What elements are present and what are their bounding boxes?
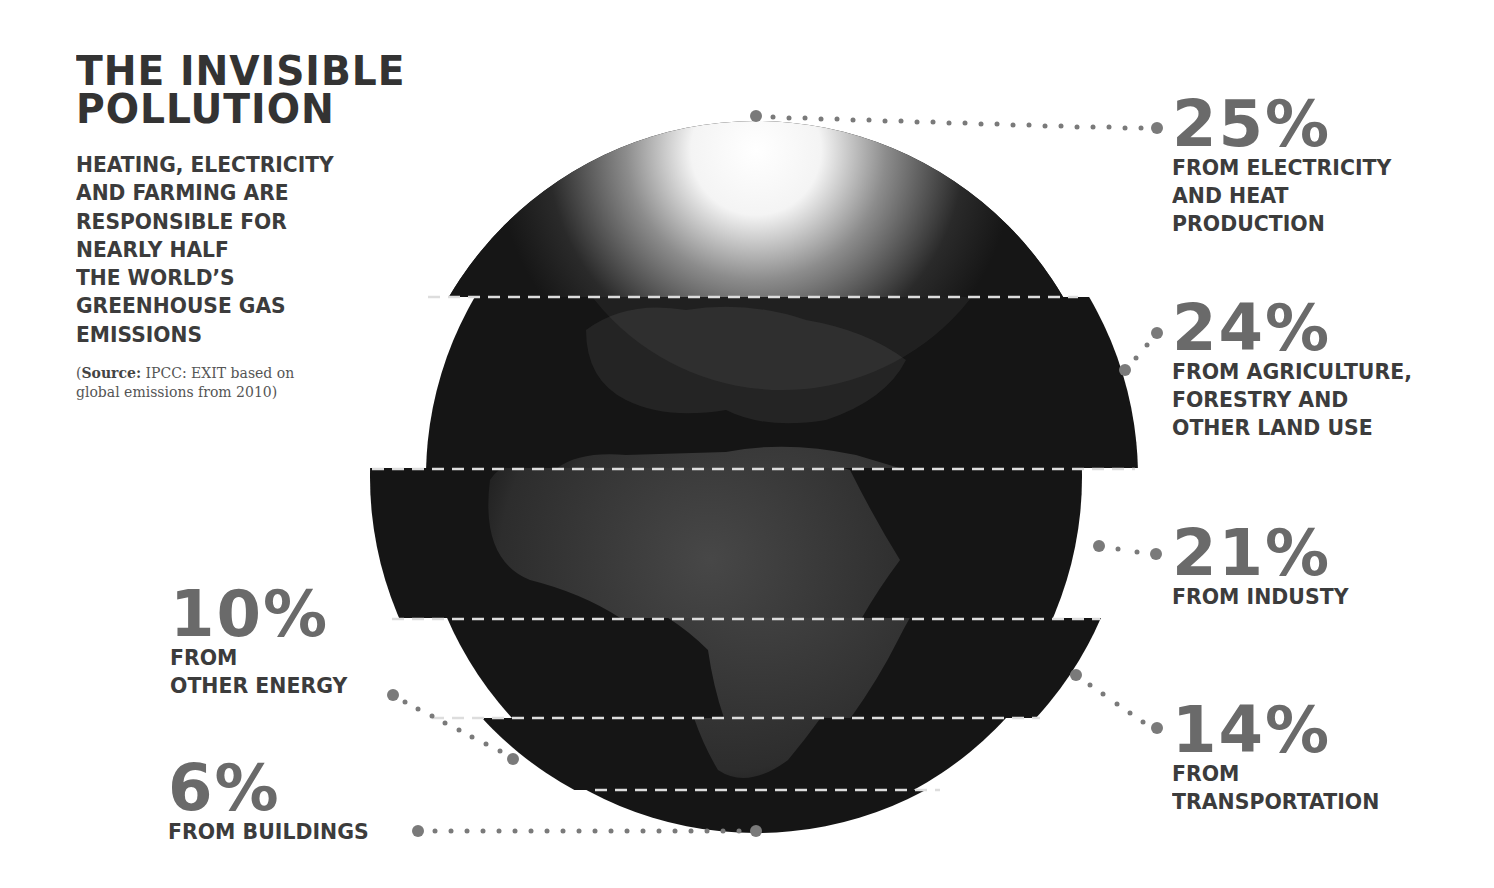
stat-label: FROM OTHER ENERGY <box>170 644 347 700</box>
stat-label: FROM AGRICULTURE, FORESTRY AND OTHER LAN… <box>1172 358 1412 442</box>
stat-buildings: 6% FROM BUILDINGS <box>168 758 384 846</box>
stat-label: FROM TRANSPORTATION <box>1172 760 1379 816</box>
source-label: Source: <box>81 365 141 381</box>
stat-label: FROM ELECTRICITY AND HEAT PRODUCTION <box>1172 154 1391 238</box>
source-note: (Source: IPCC: EXIT based on global emis… <box>76 364 294 402</box>
stat-value: 10% <box>170 584 361 644</box>
stat-value: 14% <box>1172 700 1395 760</box>
stat-value: 21% <box>1172 523 1362 583</box>
stat-industry: 21% FROM INDUSTY <box>1172 523 1362 611</box>
title-line-2: POLLUTION <box>76 86 335 132</box>
stat-label: FROM INDUSTY <box>1172 583 1348 611</box>
stat-value: 24% <box>1172 298 1430 358</box>
stat-label: FROM BUILDINGS <box>168 818 369 846</box>
stat-value: 25% <box>1172 94 1408 154</box>
stat-transportation: 14% FROM TRANSPORTATION <box>1172 700 1395 816</box>
stat-electricity: 25% FROM ELECTRICITY AND HEAT PRODUCTION <box>1172 94 1408 238</box>
stat-other-energy: 10% FROM OTHER ENERGY <box>170 584 361 700</box>
subtitle: HEATING, ELECTRICITY AND FARMING ARE RES… <box>76 151 334 349</box>
stat-agriculture: 24% FROM AGRICULTURE, FORESTRY AND OTHER… <box>1172 298 1430 442</box>
page-title: THE INVISIBLE POLLUTION <box>76 52 405 128</box>
stat-value: 6% <box>168 758 384 818</box>
